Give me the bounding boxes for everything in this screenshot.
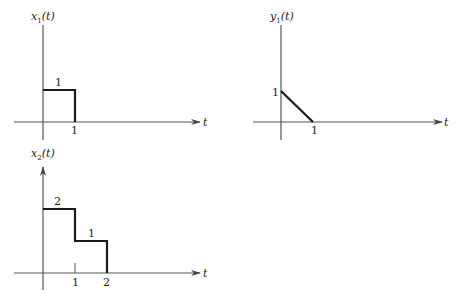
axis-label-t: t [203, 267, 208, 280]
axis-label-t: t [203, 116, 208, 129]
level-label-2: 2 [54, 195, 61, 208]
signal-y1 [281, 91, 313, 122]
plot-title: y1(t) [269, 10, 294, 25]
tick-label-2: 2 [103, 276, 110, 289]
axis-label-t: t [444, 116, 449, 129]
level-label-1: 1 [88, 227, 95, 240]
plot-title: x2(t) [31, 147, 55, 162]
y-tick-label-1: 1 [272, 86, 279, 99]
level-label: 1 [55, 76, 62, 89]
plot-title: x1(t) [31, 10, 55, 25]
signal-x1 [43, 90, 75, 122]
plot-y1: y1(t) t 1 1 [253, 10, 449, 140]
plot-x2: x2(t) t 2 1 1 2 [14, 147, 208, 290]
tick-label-1: 1 [72, 276, 79, 289]
tick-label-1: 1 [71, 124, 78, 137]
signal-plots: x1(t) t 1 1 y1(t) t 1 1 x2(t) t 2 1 1 2 [0, 0, 458, 299]
plot-x1: x1(t) t 1 1 [14, 10, 208, 140]
tick-label-1: 1 [311, 124, 318, 137]
